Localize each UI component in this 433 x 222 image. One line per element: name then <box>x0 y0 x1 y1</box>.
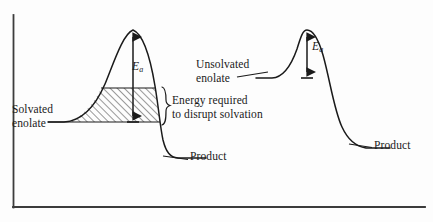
label-product-left: Product <box>190 150 226 164</box>
label-product-right: Product <box>374 139 410 153</box>
solvation-energy-brace <box>162 87 170 125</box>
solvation-energy-hatched-area <box>48 88 160 122</box>
ea-subscript-right: a <box>319 45 323 54</box>
label-solvated-enolate: Solvated enolate <box>12 103 53 130</box>
reaction-energy-diagram-figure: Solvated enolate Unsolvated enolate Ener… <box>0 0 433 222</box>
label-activation-energy-left: Ea <box>132 60 143 77</box>
label-activation-energy-right: Ea <box>312 40 323 57</box>
label-unsolvated-enolate: Unsolvated enolate <box>196 58 249 85</box>
label-energy-required-to-disrupt-solvation: Energy required to disrupt solvation <box>172 94 263 121</box>
ea-subscript-left: a <box>139 65 143 74</box>
